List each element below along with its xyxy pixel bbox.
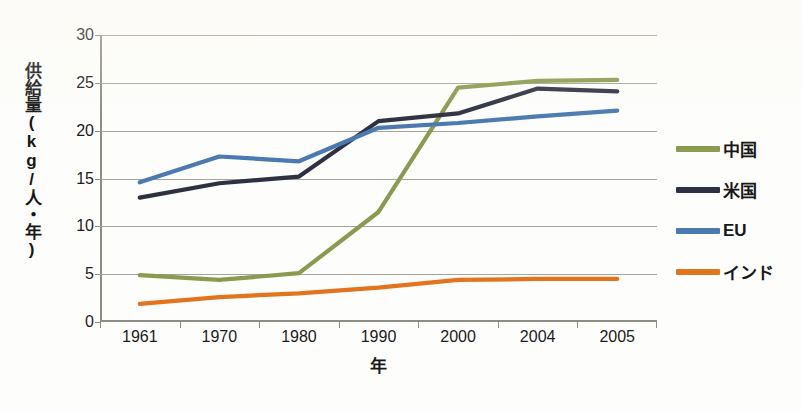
legend-item-インド[interactable]: インド xyxy=(676,251,796,292)
y-axis-title: 供給量(kg/人・年) xyxy=(14,62,40,292)
legend-label: EU xyxy=(723,221,747,241)
legend-swatch-icon xyxy=(676,228,720,234)
y-tick-label: 10 xyxy=(60,217,94,235)
series-line-米国 xyxy=(140,89,617,198)
x-tick-label: 2000 xyxy=(440,328,476,346)
legend-item-EU[interactable]: EU xyxy=(676,210,796,251)
legend-label: 米国 xyxy=(723,177,757,202)
legend-swatch-icon xyxy=(676,146,720,152)
y-tick-label: 15 xyxy=(60,170,94,188)
x-tick-label: 2005 xyxy=(599,328,635,346)
legend-label: 中国 xyxy=(723,136,757,161)
x-axis-tick-labels: 1961197019801990200020042005 xyxy=(100,328,657,354)
y-tick-label: 25 xyxy=(60,74,94,92)
chart-figure: 供給量(kg/人・年) 051015202530 196119701980199… xyxy=(0,0,802,411)
chart-legend: 中国米国EUインド xyxy=(676,128,796,292)
x-tick-label: 1961 xyxy=(122,328,158,346)
legend-label: インド xyxy=(723,259,774,284)
plot-area xyxy=(100,35,657,322)
y-tick-label: 20 xyxy=(60,122,94,140)
legend-item-中国[interactable]: 中国 xyxy=(676,128,796,169)
x-tick-label: 1980 xyxy=(281,328,317,346)
legend-item-米国[interactable]: 米国 xyxy=(676,169,796,210)
x-axis-title: 年 xyxy=(100,352,657,377)
x-tick-label: 1970 xyxy=(202,328,238,346)
legend-swatch-icon xyxy=(676,269,720,275)
y-tick-label: 30 xyxy=(60,26,94,44)
legend-swatch-icon xyxy=(676,187,720,193)
x-tick-label: 2004 xyxy=(520,328,556,346)
y-tick-label: 5 xyxy=(60,265,94,283)
series-line-インド xyxy=(140,279,617,304)
series-line-中国 xyxy=(140,80,617,280)
x-tick-label: 1990 xyxy=(361,328,397,346)
series-lines xyxy=(100,35,657,322)
y-tick-label: 0 xyxy=(60,313,94,331)
y-axis-tick-labels: 051015202530 xyxy=(50,0,94,411)
